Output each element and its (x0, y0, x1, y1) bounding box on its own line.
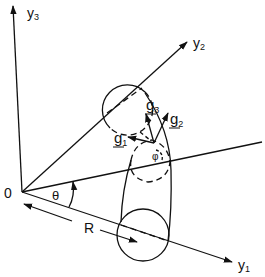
g3-label: g3 (146, 96, 159, 115)
phi-label: φ (152, 151, 159, 162)
y3-label: y3 (27, 5, 39, 22)
top-cross-section-solid (102, 85, 145, 128)
g3-vector (146, 114, 154, 143)
r-label: R (84, 220, 94, 236)
y2-axis (22, 42, 187, 192)
g1-label: g1 (114, 129, 127, 148)
mid-cross-section-dashed (131, 140, 170, 182)
theta-arc (69, 182, 74, 207)
bottom-cross-section (117, 209, 169, 261)
mid-radial-line (22, 142, 262, 192)
y3-axis (13, 6, 22, 192)
g2-label: g2 (170, 110, 183, 129)
mid-dash-small (140, 132, 150, 140)
y1-label: y1 (238, 257, 250, 274)
theta-label: θ (52, 188, 59, 203)
y2-label: y2 (193, 35, 205, 52)
tube-coordinate-diagram: y3 y2 y1 0 θ R φ g1 g3 g2 (0, 0, 265, 277)
origin-label: 0 (4, 185, 12, 201)
r-arrow-right (100, 230, 137, 242)
